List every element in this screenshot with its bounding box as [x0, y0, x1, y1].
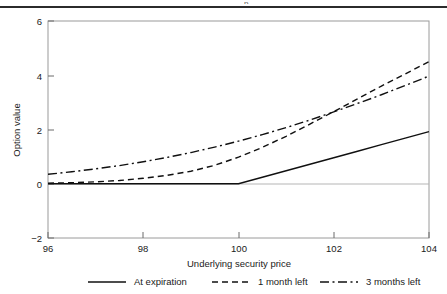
x-axis-ticks — [48, 232, 429, 238]
option-value-line-chart: 6 4 2 0 −2 96 98 100 102 104 Underlying … — [0, 0, 447, 294]
y-tick-label-0: 0 — [37, 179, 42, 190]
y-axis-ticks — [48, 21, 54, 238]
y-tick-label-6: 6 — [37, 16, 42, 27]
x-tick-label-104: 104 — [421, 243, 437, 254]
x-tick-label-102: 102 — [326, 243, 342, 254]
figure-container: p 6 4 2 0 −2 96 98 100 1 — [0, 0, 447, 294]
chart-legend: At expiration 1 month left 3 months left — [88, 276, 421, 287]
x-tick-label-96: 96 — [43, 243, 54, 254]
y-tick-label-2: 2 — [37, 125, 42, 136]
x-tick-label-100: 100 — [231, 243, 247, 254]
legend-label-3-months-left: 3 months left — [366, 276, 421, 287]
x-axis-title: Underlying security price — [187, 258, 291, 269]
legend-label-1-month-left: 1 month left — [258, 276, 308, 287]
x-tick-label-98: 98 — [138, 243, 149, 254]
series-1-month-left — [48, 62, 429, 184]
y-axis-title: Option value — [11, 103, 22, 156]
y-tick-label-neg2: −2 — [31, 233, 42, 244]
plot-frame — [48, 21, 429, 238]
legend-label-at-expiration: At expiration — [134, 276, 187, 287]
y-tick-label-4: 4 — [37, 71, 42, 82]
